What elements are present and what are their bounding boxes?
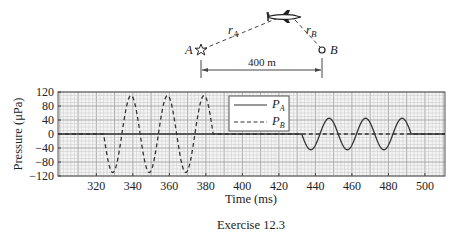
- y-tick-label: 40: [42, 113, 54, 127]
- y-tick-label: −120: [29, 169, 54, 183]
- distance-dimension: 400 m: [201, 56, 322, 78]
- x-axis-label: Time (ms): [225, 192, 277, 206]
- y-tick-label: 120: [36, 85, 54, 99]
- legend: PA PB: [229, 96, 289, 131]
- receiver-label: B: [330, 43, 338, 57]
- x-tick-label: 500: [416, 179, 434, 193]
- star-icon: [195, 44, 207, 55]
- circle-icon: [319, 47, 325, 53]
- y-tick-label: −40: [35, 141, 54, 155]
- caption: Exercise 12.3: [217, 218, 285, 232]
- y-tick-label: 0: [48, 127, 54, 141]
- x-tick-label: 420: [270, 179, 288, 193]
- figure: rA rB A B 400 m 12080400−40−: [0, 0, 456, 235]
- y-axis-ticks: 12080400−40−80−120: [29, 85, 61, 183]
- path-a-line: [203, 18, 278, 49]
- y-tick-label: −80: [35, 155, 54, 169]
- path-b-label: rB: [306, 23, 317, 39]
- path-a-label: rA: [228, 23, 239, 39]
- distance-label: 400 m: [248, 56, 276, 68]
- x-tick-label: 340: [124, 179, 142, 193]
- source-label: A: [184, 43, 193, 57]
- x-tick-label: 460: [343, 179, 361, 193]
- y-axis-label: Pressure (μPa): [11, 97, 25, 170]
- plot-area: 12080400−40−80−120 320340360380400420440…: [11, 85, 445, 206]
- x-tick-label: 440: [306, 179, 324, 193]
- x-tick-label: 320: [87, 179, 105, 193]
- x-tick-label: 480: [379, 179, 397, 193]
- x-tick-label: 380: [197, 179, 215, 193]
- x-tick-label: 400: [233, 179, 251, 193]
- y-tick-label: 80: [42, 99, 54, 113]
- geometry-diagram: rA rB A B 400 m: [184, 10, 338, 78]
- x-tick-label: 360: [160, 179, 178, 193]
